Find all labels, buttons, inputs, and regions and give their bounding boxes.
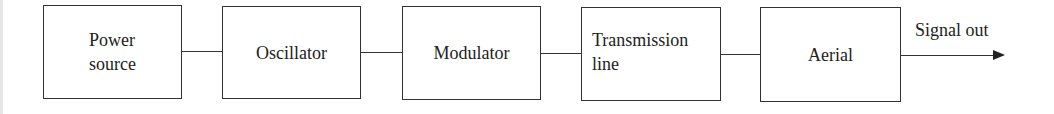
block-oscillator: Oscillator [222, 6, 361, 99]
connector-transmission-aerial [720, 54, 761, 55]
block-label: Transmission line [592, 28, 688, 76]
block-modulator: Modulator [402, 6, 541, 100]
block-label: Modulator [434, 41, 510, 65]
signal-out-label: Signal out [915, 20, 989, 41]
block-aerial: Aerial [760, 7, 901, 102]
block-transmission-line: Transmission line [581, 7, 721, 101]
block-label: Aerial [808, 43, 853, 67]
block-label: Power source [89, 28, 136, 76]
connector-power-oscillator [181, 51, 223, 52]
block-power-source: Power source [43, 5, 182, 99]
page-edge [0, 0, 3, 114]
connector-modulator-transmission [540, 53, 582, 54]
block-label: Oscillator [256, 41, 327, 65]
output-signal-line [900, 55, 994, 56]
arrow-right-icon [993, 50, 1005, 60]
connector-oscillator-modulator [360, 52, 403, 53]
